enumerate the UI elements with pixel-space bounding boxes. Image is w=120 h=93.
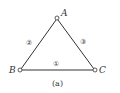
node-b-label: B (8, 65, 16, 75)
caption: (a) (52, 79, 63, 88)
member-3-label: ③ (80, 38, 86, 46)
member-2-label: ② (26, 39, 32, 47)
member-1-label: ① (53, 60, 59, 68)
member-3 (58, 20, 94, 69)
node-a-icon (55, 16, 59, 20)
node-c-label: C (99, 65, 106, 75)
node-a-label: A (60, 8, 68, 18)
node-c-icon (93, 68, 97, 72)
node-b-icon (18, 68, 22, 72)
truss-diagram: A B C ① ② ③ (a) (0, 0, 120, 93)
